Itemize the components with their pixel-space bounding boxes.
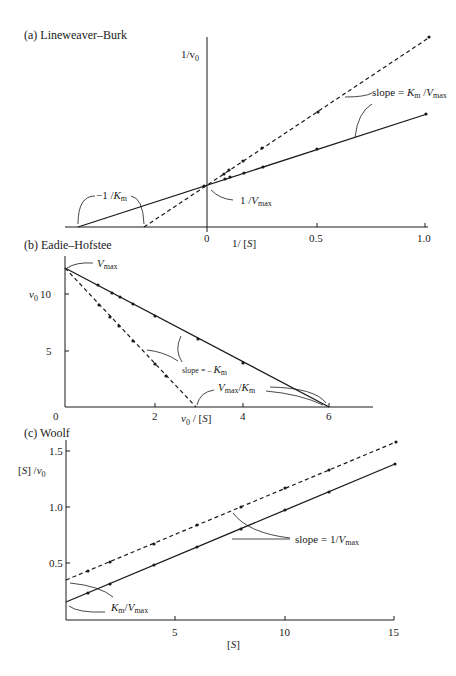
panel-b-xtick: 0 [53,410,59,422]
panel-b-solid-line [65,268,329,407]
panel-c-xtick: 10 [279,626,291,638]
panel-c-solid-line [66,464,395,602]
figure-canvas: (a) Lineweaver–Burk 0 0.5 1.0 1/v0 1/ [S… [0,0,456,676]
panel-b-slope-label: slope = – Km [182,363,228,377]
panel-a-title: (a) Lineweaver–Burk [24,28,127,42]
panel-a-dashed-line [144,37,430,227]
panel-a-slope-label: slope = Km /Vmax [372,86,447,100]
panel-b-ylabel: v0 [29,288,38,303]
panel-b-xtick: 4 [240,410,246,422]
panel-c-title: (c) Woolf [24,426,70,440]
panel-b-ytick: 5 [46,345,52,357]
panel-a-invvmax-leader [211,190,233,200]
panel-a-solid-line [78,114,427,227]
panel-b-vmax-label: Vmax [97,257,118,271]
panel-b-dashed-line [65,268,196,407]
panel-b-vmax-leader [67,263,93,268]
panel-a-xtick: 0.5 [309,232,323,244]
panel-c-ylabel: [S] /v0 [18,464,46,479]
panel-a-slope-leader [345,93,372,137]
panel-a-xtick: 1.0 [417,232,431,244]
panel-eadie-hofstee: (b) Eadie–Hofstee 10 5 0 2 4 6 v0 v0 / [… [24,238,373,427]
panel-c-ytick: 1.0 [49,501,63,513]
panel-c-xtick: 5 [172,626,178,638]
panel-a-xlabel: 1/ [S] [232,237,256,249]
panel-lineweaver-burk: (a) Lineweaver–Burk 0 0.5 1.0 1/v0 1/ [S… [24,28,447,249]
panel-b-ratio-leader [197,387,326,405]
panel-a-invvmax-label: 1 /Vmax [240,194,272,208]
panel-c-intercept-label: Km/Vmax [110,601,148,615]
panel-b-xlabel: v0 / [S] [181,412,211,427]
panel-b-ytick: 10 [40,288,52,300]
panel-c-xlabel: [S] [227,638,240,650]
panel-woolf: (c) Woolf 1.5 1.0 0.5 5 10 15 [S] /v0 [S… [18,426,400,650]
panel-b-title: (b) Eadie–Hofstee [24,238,112,252]
panel-b-xtick: 6 [326,410,332,422]
panel-c-slope-label: slope = 1/Vmax [295,533,359,547]
panel-b-slope-leader [147,336,182,362]
panel-a-negkm-label: −1 /Km [96,189,128,203]
panel-c-xtick: 15 [388,626,400,638]
panel-c-slope-leader [232,513,290,539]
panel-b-ratio-label: Vmax/Km [218,381,256,395]
panel-a-xtick: 0 [204,232,210,244]
panel-b-xtick: 2 [152,410,158,422]
panel-c-ytick: 1.5 [49,445,63,457]
panel-c-dashed-line [66,442,396,580]
panel-a-ylabel: 1/v0 [181,48,199,63]
panel-c-ytick: 0.5 [49,557,63,569]
